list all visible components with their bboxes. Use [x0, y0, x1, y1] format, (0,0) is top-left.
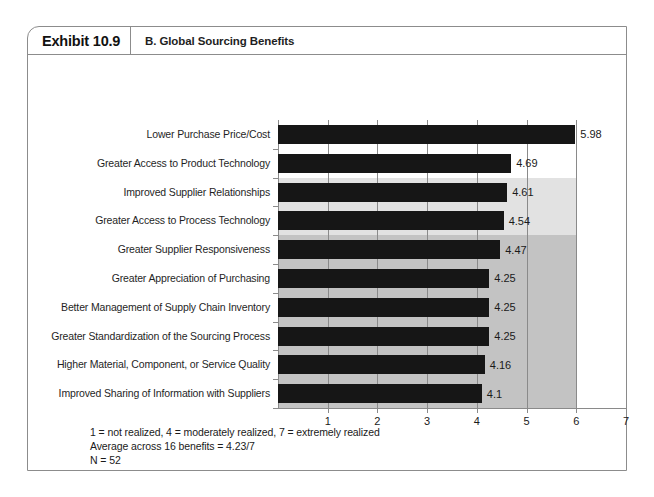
exhibit-header: Exhibit 10.9 B. Global Sourcing Benefits [28, 27, 626, 55]
x-tick-label-3: 3 [415, 415, 439, 427]
bar-value-label: 4.16 [485, 359, 511, 371]
footnote-line-2: Average across 16 benefits = 4.23/7 [90, 439, 380, 453]
bar-value-label: 4.61 [507, 186, 533, 198]
x-tick-label-5: 5 [515, 415, 539, 427]
exhibit-number: Exhibit 10.9 [28, 33, 130, 49]
x-tick-mark-3 [427, 408, 428, 413]
category-tick-mark [273, 293, 278, 294]
bar-value-label: 4.47 [500, 244, 526, 256]
x-axis-line [278, 408, 626, 409]
bar [278, 327, 489, 346]
x-tick-mark-5 [527, 408, 528, 413]
bar [278, 269, 489, 288]
category-tick-mark [273, 178, 278, 179]
bar-value-label: 4.25 [489, 330, 515, 342]
x-tick-mark-1 [328, 408, 329, 413]
x-tick-mark-6 [576, 408, 577, 413]
bar-chart: Lower Purchase Price/Cost5.98Greater Acc… [28, 56, 626, 470]
x-tick-label-4: 4 [465, 415, 489, 427]
category-tick-mark [273, 408, 278, 409]
bar-row: 4.69 [28, 154, 626, 173]
category-tick-mark [273, 235, 278, 236]
exhibit-page: Exhibit 10.9 B. Global Sourcing Benefits… [0, 0, 654, 497]
bar [278, 183, 507, 202]
bar-row: 4.1 [28, 384, 626, 403]
x-tick-label-7: 7 [614, 415, 638, 427]
category-tick-mark [273, 350, 278, 351]
bar [278, 154, 511, 173]
bar [278, 211, 504, 230]
bar-row: 4.54 [28, 211, 626, 230]
category-tick-mark [273, 149, 278, 150]
bar-row: 4.16 [28, 355, 626, 374]
x-tick-label-6: 6 [564, 415, 588, 427]
bar-value-label: 4.69 [511, 157, 537, 169]
x-tick-mark-7 [626, 408, 627, 413]
bar-value-label: 5.98 [575, 128, 601, 140]
category-tick-mark [273, 206, 278, 207]
exhibit-card: Exhibit 10.9 B. Global Sourcing Benefits… [27, 26, 627, 471]
footnote-line-3: N = 52 [90, 453, 380, 467]
bar-row: 4.25 [28, 327, 626, 346]
bar-row: 4.25 [28, 298, 626, 317]
bar [278, 355, 485, 374]
chart-footnote: 1 = not realized, 4 = moderately realize… [90, 425, 380, 467]
x-tick-mark-2 [377, 408, 378, 413]
bar [278, 240, 500, 259]
bar [278, 298, 489, 317]
bar [278, 384, 482, 403]
footnote-line-1: 1 = not realized, 4 = moderately realize… [90, 425, 380, 439]
exhibit-title: B. Global Sourcing Benefits [131, 35, 294, 47]
gridline-7 [626, 120, 627, 408]
category-tick-mark [273, 379, 278, 380]
x-tick-mark-4 [477, 408, 478, 413]
bar-value-label: 4.54 [504, 215, 530, 227]
bar-row: 4.25 [28, 269, 626, 288]
bar-row: 5.98 [28, 125, 626, 144]
category-tick-mark [273, 264, 278, 265]
bar-value-label: 4.1 [482, 388, 502, 400]
bar [278, 125, 575, 144]
bar-row: 4.47 [28, 240, 626, 259]
bar-row: 4.61 [28, 183, 626, 202]
category-tick-mark [273, 322, 278, 323]
bar-value-label: 4.25 [489, 272, 515, 284]
bar-value-label: 4.25 [489, 301, 515, 313]
